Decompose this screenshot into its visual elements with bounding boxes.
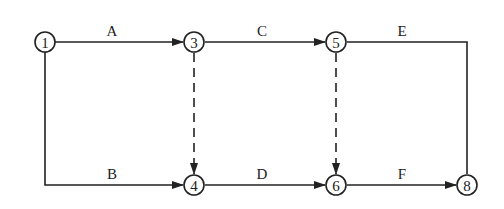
node-4: 4 [184, 175, 204, 195]
edge-label-f: F [398, 166, 406, 182]
edge-label-d: D [257, 166, 268, 182]
node-8: 8 [457, 175, 477, 195]
svg-text:4: 4 [190, 178, 198, 194]
node-1: 1 [35, 32, 55, 52]
edge-label-e: E [397, 23, 406, 39]
svg-text:5: 5 [332, 35, 340, 51]
svg-text:8: 8 [463, 178, 471, 194]
edge-e [347, 42, 467, 174]
edge-label-b: B [107, 166, 117, 182]
network-diagram: A C E B D F 1 3 5 4 6 8 [0, 0, 504, 209]
edge-label-a: A [107, 23, 118, 39]
svg-text:6: 6 [332, 178, 340, 194]
svg-text:3: 3 [190, 35, 198, 51]
edge-label-c: C [257, 23, 267, 39]
svg-text:1: 1 [41, 35, 49, 51]
node-3: 3 [184, 32, 204, 52]
node-6: 6 [326, 175, 346, 195]
node-5: 5 [326, 32, 346, 52]
